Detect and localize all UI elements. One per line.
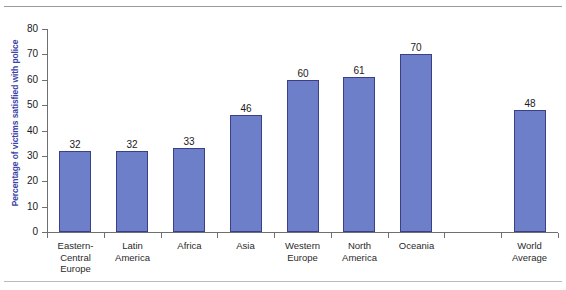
y-axis-tick-label: 30 — [27, 150, 38, 161]
bar-value-label: 32 — [69, 139, 80, 150]
x-axis-tick — [388, 233, 389, 238]
x-axis-tick — [47, 233, 48, 238]
x-axis-category-label: LatinAmerica — [104, 240, 161, 263]
x-axis-tick — [104, 233, 105, 238]
category-label-line: World — [501, 240, 558, 252]
x-axis-category-label: Asia — [217, 240, 274, 252]
category-label-line: America — [331, 252, 388, 264]
plot-area: 3232334660617048 — [47, 29, 558, 232]
category-label-line: Europe — [47, 263, 104, 275]
bar-value-label: 33 — [183, 136, 194, 147]
bar[interactable]: 70 — [400, 54, 432, 232]
x-axis-category-label: NorthAmerica — [331, 240, 388, 263]
x-axis-tick — [161, 233, 162, 238]
x-axis-category-label: WesternEurope — [274, 240, 331, 263]
category-label-line: Average — [501, 252, 558, 264]
bar-value-label: 46 — [240, 103, 251, 114]
category-label-line: Western — [274, 240, 331, 252]
x-axis-category-label: Oceania — [388, 240, 445, 252]
x-axis-category-label: Eastern-CentralEurope — [47, 240, 104, 275]
bar-value-label: 60 — [297, 68, 308, 79]
x-axis-tick — [558, 233, 559, 238]
y-axis-tick-label: 80 — [27, 23, 38, 34]
x-axis-tick — [501, 233, 502, 238]
x-axis-category-label: Africa — [161, 240, 218, 252]
x-axis-tick — [331, 233, 332, 238]
category-label-line: Central — [47, 252, 104, 264]
x-axis-tick — [274, 233, 275, 238]
y-axis-tick-label: 60 — [27, 74, 38, 85]
bar[interactable]: 61 — [343, 77, 375, 232]
bar-chart: Percentage of victims satisfied with pol… — [0, 0, 566, 290]
y-axis-tick-label: 40 — [27, 125, 38, 136]
category-label-line: North — [331, 240, 388, 252]
bar-value-label: 61 — [353, 65, 364, 76]
category-label-line: Africa — [161, 240, 218, 252]
x-axis-line — [47, 232, 558, 233]
category-label-line: Latin — [104, 240, 161, 252]
bar-value-label: 48 — [524, 98, 535, 109]
category-label-line: Oceania — [388, 240, 445, 252]
bar[interactable]: 46 — [230, 115, 262, 232]
y-axis-tick-label: 20 — [27, 175, 38, 186]
x-axis-category-label: WorldAverage — [501, 240, 558, 263]
y-axis-tick-label: 50 — [27, 99, 38, 110]
category-label-line: America — [104, 252, 161, 264]
bar[interactable]: 32 — [59, 151, 91, 232]
bar[interactable]: 33 — [173, 148, 205, 232]
y-axis-tick-label: 70 — [27, 48, 38, 59]
x-axis-tick — [217, 233, 218, 238]
category-label-line: Asia — [217, 240, 274, 252]
bar[interactable]: 60 — [287, 80, 319, 232]
y-axis-tick-label: 0 — [32, 226, 38, 237]
bar[interactable]: 48 — [514, 110, 546, 232]
bar-value-label: 32 — [126, 139, 137, 150]
bar-value-label: 70 — [410, 42, 421, 53]
category-label-line: Eastern- — [47, 240, 104, 252]
bar[interactable]: 32 — [116, 151, 148, 232]
y-axis-title: Percentage of victims satisfied with pol… — [10, 23, 20, 223]
x-axis-tick — [444, 233, 445, 238]
y-axis-tick-label: 10 — [27, 201, 38, 212]
category-label-line: Europe — [274, 252, 331, 264]
